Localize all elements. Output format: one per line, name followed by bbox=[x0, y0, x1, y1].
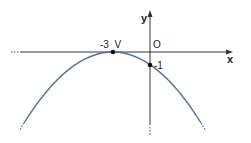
parabola-right-dotted-end bbox=[201, 123, 206, 131]
origin-label: O bbox=[153, 39, 161, 50]
parabola-left-dotted-end bbox=[19, 123, 24, 131]
y-axis-arrow-icon bbox=[148, 10, 153, 17]
y-intercept-label: -1 bbox=[154, 60, 163, 71]
x-axis-label: x bbox=[227, 53, 234, 65]
y-axis-label: y bbox=[141, 12, 148, 24]
vertex-label: -3 V bbox=[100, 39, 121, 50]
y-intercept-point bbox=[148, 63, 153, 68]
parabola-curve bbox=[24, 52, 201, 123]
vertex-point bbox=[111, 50, 116, 55]
parabola-diagram: y x O -3 V -1 bbox=[0, 0, 251, 143]
